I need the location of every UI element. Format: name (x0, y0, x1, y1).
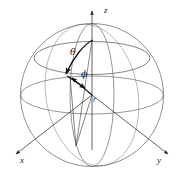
sphere-diagram: z x y r θ ϕ (0, 0, 183, 183)
y-axis-label: y (156, 155, 161, 165)
theta-angle-label: θ (70, 46, 76, 57)
x-axis-label: x (19, 155, 24, 165)
z-axis-label: z (103, 5, 108, 15)
spherical-coordinate-figure: z x y r θ ϕ (0, 0, 183, 183)
radius-label: r (93, 95, 97, 104)
phi-angle-label: ϕ (81, 68, 88, 79)
x-axis-line (16, 95, 92, 154)
projection-ground-line (76, 95, 92, 146)
